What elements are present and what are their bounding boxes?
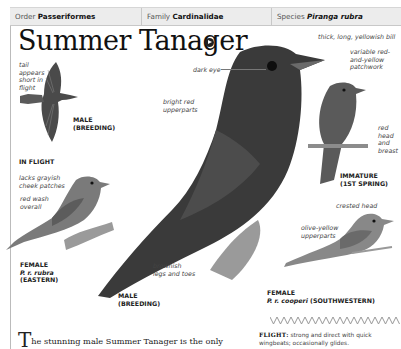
caption-in-flight: IN FLIGHT <box>19 158 54 166</box>
female-southwestern-illustration <box>282 205 400 280</box>
label-tail: tailappearsshort inflight <box>19 61 44 91</box>
body-paragraph: The stunning male Summer Tanager is the … <box>18 334 223 346</box>
caption-female-sw: FEMALEP. r. cooperi (SOUTHWESTERN) <box>267 289 375 304</box>
field-guide-page: Order Passeriformes Family Cardinalidae … <box>0 0 401 349</box>
caption-female-eastern: FEMALEP. r. rubra(EASTERN) <box>20 261 58 284</box>
caption-immature: IMMATURE(1ST SPRING) <box>340 172 388 187</box>
label-bright-red: bright redupperparts <box>163 98 198 113</box>
taxonomy-order: Order Passeriformes <box>10 8 142 25</box>
flight-description: FLIGHT: strong and direct with quickwing… <box>259 331 399 347</box>
label-cheek: lacks grayishcheek patches <box>19 174 65 189</box>
label-red-wash: red washoverall <box>20 195 49 210</box>
taxonomy-bar: Order Passeriformes Family Cardinalidae … <box>10 7 401 26</box>
label-patchwork: variable red-and-yellowpatchwork <box>350 48 390 71</box>
label-dark-eye: dark eye <box>193 66 221 74</box>
drop-cap: T <box>18 328 31 349</box>
label-red-head: redheadandbreast <box>378 124 398 154</box>
flight-pattern-icon <box>270 316 400 325</box>
taxonomy-species: Species Piranga rubra <box>272 8 401 25</box>
label-legs: brownishlegs and toes <box>153 262 195 277</box>
label-bill: thick, long, yellowish bill <box>318 33 395 41</box>
label-olive: olive-yellowupperparts <box>301 224 338 239</box>
taxonomy-family: Family Cardinalidae <box>142 8 272 25</box>
label-crested: crested head <box>336 202 377 210</box>
leader-line <box>221 69 266 70</box>
caption-male-main: MALE(BREEDING) <box>118 292 160 307</box>
